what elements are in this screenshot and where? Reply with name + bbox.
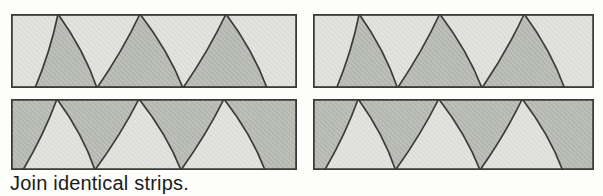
tessellation-figure: Join identical strips. [0, 0, 603, 196]
strip-top-left [11, 14, 297, 88]
strip-drawing [313, 14, 594, 88]
strip-bottom-left [11, 99, 297, 170]
strip-drawing [11, 99, 297, 170]
strip-top-right [313, 14, 594, 88]
strip-bottom-right [313, 99, 594, 170]
strip-drawing [11, 14, 297, 88]
strip-drawing [313, 99, 594, 170]
figure-caption: Join identical strips. [10, 171, 189, 195]
